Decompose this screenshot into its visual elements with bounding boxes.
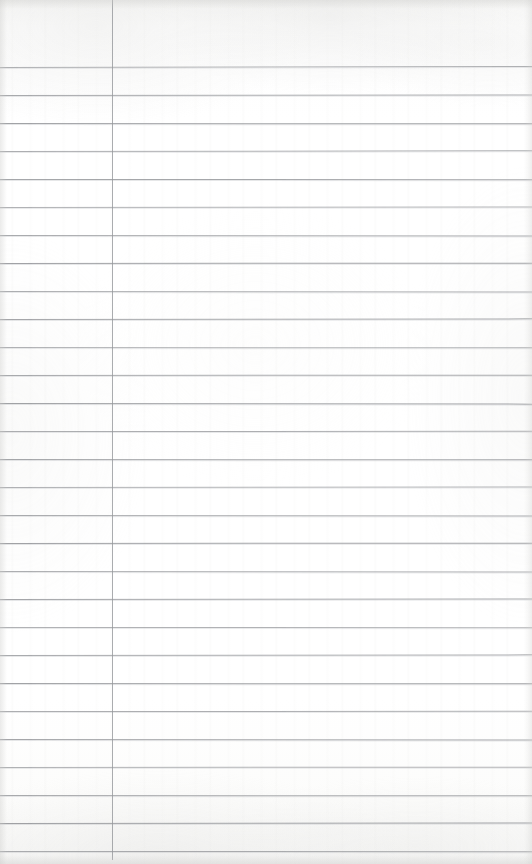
notepaper-page bbox=[0, 0, 532, 864]
paper-sheet bbox=[0, 0, 532, 864]
